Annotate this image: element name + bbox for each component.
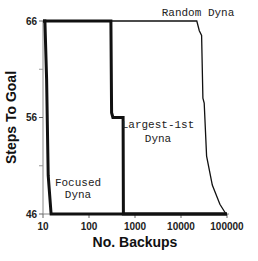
series-label: Focused: [55, 177, 101, 189]
y-tick-label: 46: [26, 209, 38, 220]
x-tick-label: 10000: [167, 221, 195, 232]
x-tick-label: 10: [37, 221, 49, 232]
x-tick-label: 1000: [124, 221, 147, 232]
x-tick-label: 100: [81, 221, 98, 232]
y-axis-title: Steps To Goal: [3, 71, 19, 164]
y-tick-label: 56: [26, 112, 38, 123]
series-label: Dyna: [145, 133, 172, 145]
x-axis-title: No. Backups: [93, 234, 178, 250]
chart: 46566610100100010000100000No. BackupsSte…: [0, 0, 258, 261]
series-label: Largest-1st: [122, 119, 195, 131]
labels-layer: FocusedDynaLargest-1stDynaRandom Dyna: [55, 7, 235, 201]
y-tick-label: 66: [26, 16, 38, 27]
series-label: Random Dyna: [162, 7, 235, 19]
x-tick-label: 100000: [210, 221, 244, 232]
series-label: Dyna: [65, 189, 92, 201]
